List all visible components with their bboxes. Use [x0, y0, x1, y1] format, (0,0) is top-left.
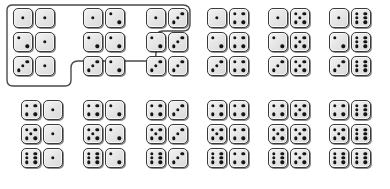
pip — [337, 16, 340, 19]
pip — [355, 160, 358, 163]
pip — [302, 136, 305, 139]
pip — [355, 136, 358, 139]
pip — [180, 104, 183, 107]
pip — [333, 156, 336, 159]
die-left-3 — [329, 56, 349, 76]
pip — [280, 152, 283, 155]
pip — [233, 68, 236, 71]
pip — [341, 112, 344, 115]
pip — [294, 68, 297, 71]
die-right-3 — [168, 100, 188, 120]
pip — [272, 104, 275, 107]
pip — [109, 128, 112, 131]
pip — [341, 60, 344, 63]
die-left-5 — [207, 124, 227, 144]
die-left-5 — [21, 124, 41, 144]
domino-5-1 — [20, 124, 64, 144]
pip — [302, 128, 305, 131]
pip — [333, 160, 336, 163]
pip — [219, 160, 222, 163]
pip — [333, 128, 336, 131]
pip — [219, 60, 222, 63]
die-right-5 — [290, 8, 310, 28]
die-right-5 — [290, 124, 310, 144]
pip — [294, 112, 297, 115]
domino-3-3 — [145, 56, 189, 76]
pip — [363, 44, 366, 47]
pip — [25, 44, 28, 47]
pip — [25, 160, 28, 163]
domino-6-5 — [267, 148, 311, 168]
pip — [341, 152, 344, 155]
pip — [176, 40, 179, 43]
die-right-5 — [290, 100, 310, 120]
group-fours — [206, 8, 250, 80]
pip — [298, 132, 301, 135]
pip — [333, 112, 336, 115]
pip — [219, 128, 222, 131]
pip — [363, 136, 366, 139]
pip — [87, 36, 90, 39]
dice-grid-figure — [0, 0, 390, 189]
pip — [355, 60, 358, 63]
pip — [363, 40, 366, 43]
pip — [158, 152, 161, 155]
domino-2-5 — [267, 32, 311, 52]
die-left-2 — [83, 32, 103, 52]
pip — [172, 44, 175, 47]
pip — [43, 64, 46, 67]
domino-2-6 — [328, 32, 372, 52]
group-fives — [267, 8, 311, 80]
pip — [211, 128, 214, 131]
die-left-4 — [83, 100, 103, 120]
pip — [363, 128, 366, 131]
pip — [241, 44, 244, 47]
pip — [337, 132, 340, 135]
pip — [150, 156, 153, 159]
pip — [180, 152, 183, 155]
pip — [355, 152, 358, 155]
pip — [33, 104, 36, 107]
pip — [233, 60, 236, 63]
pip — [33, 112, 36, 115]
die-left-3 — [146, 56, 166, 76]
pip — [150, 36, 153, 39]
pip — [272, 36, 275, 39]
pip — [176, 108, 179, 111]
die-left-3 — [207, 56, 227, 76]
pip — [233, 112, 236, 115]
pip — [33, 160, 36, 163]
pip — [95, 136, 98, 139]
die-right-6 — [351, 148, 371, 168]
die-left-3 — [268, 56, 288, 76]
pip — [302, 20, 305, 23]
pip — [33, 156, 36, 159]
die-left-1 — [329, 8, 349, 28]
pip — [150, 160, 153, 163]
die-right-2 — [105, 32, 125, 52]
die-left-5 — [268, 124, 288, 144]
die-left-1 — [207, 8, 227, 28]
die-left-6 — [146, 148, 166, 168]
pip — [158, 128, 161, 131]
pip — [302, 36, 305, 39]
group-threes — [145, 8, 189, 80]
pip — [280, 104, 283, 107]
pip — [233, 44, 236, 47]
die-left-2 — [207, 32, 227, 52]
pip — [180, 60, 183, 63]
domino-1-6 — [328, 8, 372, 28]
pip — [25, 152, 28, 155]
pip — [341, 156, 344, 159]
pip — [91, 16, 94, 19]
pip — [363, 20, 366, 23]
pip — [302, 44, 305, 47]
pip — [172, 136, 175, 139]
domino-4-5 — [267, 100, 311, 120]
die-right-3 — [168, 148, 188, 168]
die-left-6 — [268, 148, 288, 168]
pip — [215, 132, 218, 135]
pip — [95, 104, 98, 107]
pip — [87, 160, 90, 163]
group-twos-lower — [82, 100, 126, 172]
